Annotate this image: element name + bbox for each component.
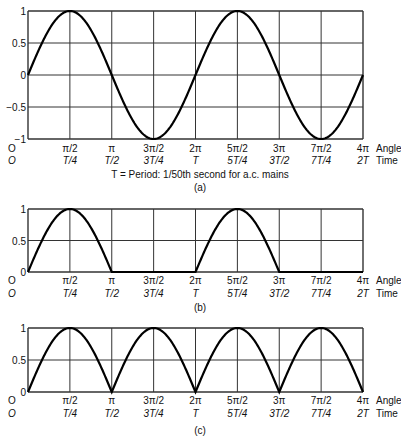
angle-tick-label: O bbox=[8, 395, 16, 406]
y-tick-label: 0.5 bbox=[12, 355, 26, 366]
angle-tick-label: π bbox=[108, 143, 115, 154]
time-tick-label: 7T/4 bbox=[311, 155, 331, 166]
angle-tick-label: 2π bbox=[189, 395, 202, 406]
time-tick-label: O bbox=[8, 155, 16, 166]
y-tick-label: 1 bbox=[20, 6, 26, 17]
angle-tick-label: 5π/2 bbox=[227, 143, 248, 154]
angle-tick-label: 2π bbox=[189, 143, 202, 154]
time-tick-label: 5T/4 bbox=[227, 288, 247, 299]
angle-tick-label: 7π/2 bbox=[311, 395, 332, 406]
angle-tick-label: 3π/2 bbox=[143, 275, 164, 286]
angle-tick-label: π bbox=[108, 395, 115, 406]
angle-tick-label: π/2 bbox=[62, 275, 78, 286]
time-tick-label: 3T/2 bbox=[269, 408, 289, 419]
angle-tick-label: 3π bbox=[273, 143, 286, 154]
y-tick-label: 0.5 bbox=[12, 236, 26, 247]
panel-caption: (a) bbox=[194, 182, 206, 193]
panel-a: 10.50−0.5−1Oπ/2π3π/22π5π/23π7π/24πOT/4T/… bbox=[6, 6, 401, 193]
angle-tick-label: 3π/2 bbox=[143, 143, 164, 154]
angle-axis-label: Angle bbox=[376, 143, 401, 154]
time-tick-label: T/2 bbox=[105, 408, 120, 419]
y-tick-label: −1 bbox=[15, 134, 27, 145]
time-tick-label: 3T/4 bbox=[144, 155, 164, 166]
angle-tick-label: O bbox=[8, 275, 16, 286]
angle-tick-label: 4π bbox=[357, 143, 370, 154]
time-tick-label: 2T bbox=[356, 288, 370, 299]
angle-axis-label: Angle bbox=[376, 275, 401, 286]
y-tick-label: 0.5 bbox=[12, 38, 26, 49]
time-tick-label: T bbox=[192, 155, 199, 166]
time-tick-label: 3T/4 bbox=[144, 288, 164, 299]
angle-tick-label: π/2 bbox=[62, 143, 78, 154]
time-tick-label: 5T/4 bbox=[227, 155, 247, 166]
angle-tick-label: 3π bbox=[273, 395, 286, 406]
time-axis-label: Time bbox=[376, 288, 398, 299]
angle-tick-label: 2π bbox=[189, 275, 202, 286]
period-note: T = Period: 1/50th second for a.c. mains bbox=[111, 169, 288, 180]
time-tick-label: T bbox=[192, 408, 199, 419]
time-tick-label: 3T/2 bbox=[269, 288, 289, 299]
time-tick-label: 2T bbox=[356, 408, 370, 419]
time-tick-label: T/4 bbox=[63, 155, 78, 166]
y-tick-label: 1 bbox=[20, 323, 26, 334]
angle-tick-label: 5π/2 bbox=[227, 395, 248, 406]
time-tick-label: 3T/2 bbox=[269, 155, 289, 166]
time-tick-label: T/4 bbox=[63, 288, 78, 299]
panel-caption: (b) bbox=[194, 302, 206, 313]
time-tick-label: 7T/4 bbox=[311, 288, 331, 299]
y-tick-label: 0 bbox=[20, 267, 26, 278]
panel-c: 10.50Oπ/2π3π/22π5π/23π7π/24πOT/4T/23T/4T… bbox=[8, 323, 401, 436]
time-tick-label: 7T/4 bbox=[311, 408, 331, 419]
time-tick-label: 2T bbox=[356, 155, 370, 166]
time-tick-label: T/2 bbox=[105, 155, 120, 166]
panel-caption: (c) bbox=[194, 425, 206, 436]
angle-tick-label: 3π/2 bbox=[143, 395, 164, 406]
y-tick-label: 1 bbox=[20, 204, 26, 215]
angle-tick-label: O bbox=[8, 143, 16, 154]
y-tick-label: −0.5 bbox=[6, 102, 26, 113]
y-tick-label: 0 bbox=[20, 70, 26, 81]
panel-b: 10.50Oπ/2π3π/22π5π/23π7π/24πOT/4T/23T/4T… bbox=[8, 204, 401, 313]
angle-tick-label: 4π bbox=[357, 275, 370, 286]
angle-tick-label: π bbox=[108, 275, 115, 286]
time-tick-label: T/2 bbox=[105, 288, 120, 299]
angle-tick-label: 5π/2 bbox=[227, 275, 248, 286]
time-tick-label: O bbox=[8, 288, 16, 299]
angle-tick-label: 7π/2 bbox=[311, 143, 332, 154]
time-tick-label: T bbox=[192, 288, 199, 299]
angle-tick-label: 4π bbox=[357, 395, 370, 406]
time-tick-label: O bbox=[8, 408, 16, 419]
time-axis-label: Time bbox=[376, 408, 398, 419]
angle-tick-label: 7π/2 bbox=[311, 275, 332, 286]
time-tick-label: 5T/4 bbox=[227, 408, 247, 419]
angle-tick-label: π/2 bbox=[62, 395, 78, 406]
time-tick-label: 3T/4 bbox=[144, 408, 164, 419]
angle-axis-label: Angle bbox=[376, 395, 401, 406]
angle-tick-label: 3π bbox=[273, 275, 286, 286]
time-tick-label: T/4 bbox=[63, 408, 78, 419]
waveform-figure: 10.50−0.5−1Oπ/2π3π/22π5π/23π7π/24πOT/4T/… bbox=[0, 0, 401, 438]
y-tick-label: 0 bbox=[20, 387, 26, 398]
time-axis-label: Time bbox=[376, 155, 398, 166]
